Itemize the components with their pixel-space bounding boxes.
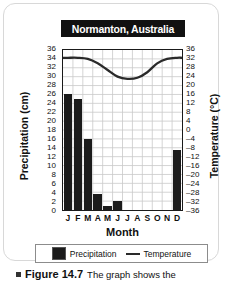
figure-caption: Figure 14.7 The graph shows the	[16, 268, 229, 280]
y-tick-label-right: –8	[186, 144, 195, 152]
figure-panel: Normanton, Australia Precipitation (cm) …	[3, 3, 219, 261]
y-axis-ticks-left: 024681012141618202224262830323436	[28, 49, 56, 211]
legend-item-precipitation: Precipitation	[52, 247, 117, 260]
y-tick-label-left: 28	[47, 81, 56, 89]
x-tick-label: S	[144, 213, 150, 223]
y-tick-label-right: 28	[186, 63, 195, 71]
y-tick-label-left: 4	[52, 189, 56, 197]
y-tick-label-right: –28	[186, 189, 199, 197]
y-tick-label-right: –32	[186, 198, 199, 206]
y-tick-label-left: 36	[47, 45, 56, 53]
y-tick-label-right: 4	[186, 117, 190, 125]
square-bullet-icon	[16, 272, 21, 277]
x-tick-label: F	[75, 213, 80, 223]
plot-area	[62, 49, 183, 211]
y-tick-label-left: 2	[52, 198, 56, 206]
y-tick-label-right: 24	[186, 72, 195, 80]
x-tick-label: J	[125, 213, 130, 223]
y-tick-label-left: 22	[47, 108, 56, 116]
y-tick-label-left: 30	[47, 72, 56, 80]
line-segment-icon	[126, 253, 140, 255]
figure-caption-text: The graph shows the	[87, 269, 176, 280]
legend-item-temperature: Temperature	[126, 249, 192, 259]
x-tick-label: D	[174, 213, 180, 223]
x-tick-label: O	[154, 213, 161, 223]
figure-number: Figure 14.7	[25, 268, 83, 280]
legend-label-temperature: Temperature	[144, 249, 192, 259]
x-tick-label: M	[84, 213, 91, 223]
y-tick-label-right: –16	[186, 162, 199, 170]
y-tick-label-right: 12	[186, 99, 195, 107]
x-axis-title: Month	[62, 226, 183, 238]
y-tick-label-right: –24	[186, 180, 199, 188]
y-tick-label-left: 26	[47, 90, 56, 98]
y-tick-label-right: –12	[186, 153, 199, 161]
y-tick-label-left: 10	[47, 162, 56, 170]
y-tick-label-left: 16	[47, 135, 56, 143]
y-tick-label-right: –20	[186, 171, 199, 179]
y-tick-label-left: 34	[47, 54, 56, 62]
legend-label-precipitation: Precipitation	[70, 249, 117, 259]
x-tick-label: A	[95, 213, 101, 223]
y-tick-label-right: –36	[186, 207, 199, 215]
y-tick-label-left: 14	[47, 144, 56, 152]
y-tick-label-left: 32	[47, 63, 56, 71]
y-tick-label-left: 20	[47, 117, 56, 125]
chart-legend: Precipitation Temperature	[35, 244, 208, 263]
y-tick-label-left: 24	[47, 99, 56, 107]
x-tick-label: N	[164, 213, 170, 223]
y-tick-label-right: 16	[186, 90, 195, 98]
y-tick-label-right: 36	[186, 45, 195, 53]
figure-container: Normanton, Australia Precipitation (cm) …	[0, 0, 229, 291]
y-axis-ticks-right: 36322824201612840–4–8–12–16–20–24–28–32–…	[186, 49, 214, 211]
x-axis-ticks: JFMAMJJASOND	[62, 213, 183, 225]
y-tick-label-left: 8	[52, 171, 56, 179]
x-tick-label: J	[115, 213, 120, 223]
filled-square-icon	[52, 247, 66, 260]
x-tick-label: J	[66, 213, 71, 223]
y-tick-label-right: 20	[186, 81, 195, 89]
chart-title: Normanton, Australia	[72, 23, 174, 35]
x-tick-label: A	[134, 213, 140, 223]
chart-title-banner: Normanton, Australia	[61, 20, 185, 37]
y-tick-label-left: 0	[52, 207, 56, 215]
y-tick-label-left: 6	[52, 180, 56, 188]
y-tick-label-right: 32	[186, 54, 195, 62]
y-tick-label-left: 12	[47, 153, 56, 161]
y-tick-label-right: 0	[186, 126, 190, 134]
y-tick-label-left: 18	[47, 126, 56, 134]
temperature-line	[63, 50, 182, 210]
y-tick-label-right: 8	[186, 108, 190, 116]
y-tick-label-right: –4	[186, 135, 195, 143]
x-tick-label: M	[104, 213, 111, 223]
